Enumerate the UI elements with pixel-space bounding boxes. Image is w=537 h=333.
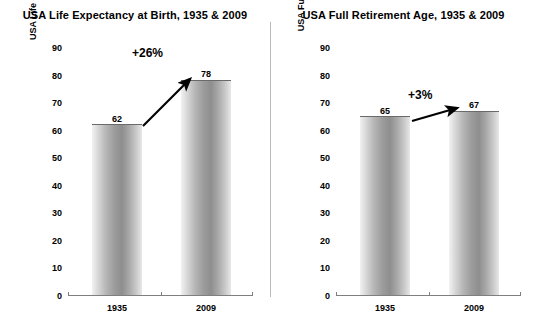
y-axis-label-right: USA Full Retirement Age (Years) <box>294 0 308 80</box>
y-tick-90-right: 90 <box>306 43 330 53</box>
y-axis-label-left: USA Life Expectancy at Birth (Years) <box>26 0 40 80</box>
y-tick-20-left: 20 <box>38 236 62 246</box>
y-tick-50-left: 50 <box>38 153 62 163</box>
bar-1935-right <box>360 116 410 295</box>
y-tick-0-right: 0 <box>306 291 330 301</box>
chart-panel-retirement-age: USA Full Retirement Age, 1935 & 2009 USA… <box>270 0 537 333</box>
x-axis-tick-end-right <box>520 292 521 296</box>
y-tick-90-left: 90 <box>38 43 62 53</box>
x-axis-tick-mid-left <box>161 292 162 296</box>
y-tick-60-right: 60 <box>306 126 330 136</box>
y-tick-30-left: 30 <box>38 208 62 218</box>
bar-value-2009-right: 67 <box>449 100 499 110</box>
chart-title-right: USA Full Retirement Age, 1935 & 2009 <box>270 9 537 21</box>
bar-value-1935-right: 65 <box>360 106 410 116</box>
plot-area-right: 90 80 70 60 50 40 30 20 10 0 65 67 <box>336 48 521 296</box>
figure-root: USA Life Expectancy at Birth, 1935 & 200… <box>0 0 537 333</box>
source-caption-strip <box>132 327 534 333</box>
y-tick-20-right: 20 <box>306 236 330 246</box>
x-tick-2009-left: 2009 <box>176 303 236 313</box>
percent-change-right: +3% <box>408 88 432 102</box>
x-axis-tick-mid-right <box>429 292 430 296</box>
y-tick-10-left: 10 <box>38 263 62 273</box>
bar-1935-left <box>92 124 142 295</box>
y-tick-70-left: 70 <box>38 98 62 108</box>
chart-panel-life-expectancy: USA Life Expectancy at Birth, 1935 & 200… <box>0 0 270 333</box>
bar-value-2009-left: 78 <box>181 69 231 79</box>
y-tick-70-right: 70 <box>306 98 330 108</box>
y-tick-40-left: 40 <box>38 181 62 191</box>
x-axis-tick-end-left <box>252 292 253 296</box>
x-axis-tick-start-left <box>68 292 69 296</box>
chart-title-left: USA Life Expectancy at Birth, 1935 & 200… <box>0 9 270 21</box>
y-tick-0-left: 0 <box>38 291 62 301</box>
y-tick-40-right: 40 <box>306 181 330 191</box>
y-tick-50-right: 50 <box>306 153 330 163</box>
x-tick-1935-right: 1935 <box>355 303 415 313</box>
bar-value-1935-left: 62 <box>92 114 142 124</box>
x-axis-tick-start-right <box>336 292 337 296</box>
bar-2009-left <box>181 80 231 295</box>
y-tick-60-left: 60 <box>38 126 62 136</box>
x-tick-2009-right: 2009 <box>444 303 504 313</box>
x-tick-1935-left: 1935 <box>87 303 147 313</box>
plot-area-left: 90 80 70 60 50 40 30 20 10 0 62 78 <box>68 48 253 296</box>
percent-change-left: +26% <box>132 46 163 60</box>
bar-2009-right <box>449 111 499 296</box>
y-tick-80-right: 80 <box>306 71 330 81</box>
y-tick-10-right: 10 <box>306 263 330 273</box>
y-tick-80-left: 80 <box>38 71 62 81</box>
y-tick-30-right: 30 <box>306 208 330 218</box>
